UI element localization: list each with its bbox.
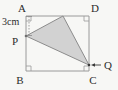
right-angle-mark-b (26, 66, 31, 71)
vertex-label-b: B (16, 74, 23, 86)
vertex-dot-q (88, 64, 91, 67)
vertex-label-p: P (12, 35, 18, 47)
geometry-canvas: A D C B P Q 3cm (0, 0, 118, 90)
right-angle-mark-d (84, 16, 89, 21)
vertex-label-c: C (89, 74, 96, 86)
shaded-triangle (26, 16, 89, 65)
right-angle-mark-c (84, 66, 89, 71)
vertex-label-q: Q (104, 59, 112, 71)
q-pointer-arrow-head (91, 63, 95, 66)
vertex-dot-p (25, 35, 28, 38)
vertex-label-d: D (91, 2, 99, 14)
vertex-label-a: A (18, 2, 26, 14)
geometry-figure: A D C B P Q 3cm (0, 0, 118, 90)
dimension-label-3cm: 3cm (2, 16, 19, 27)
